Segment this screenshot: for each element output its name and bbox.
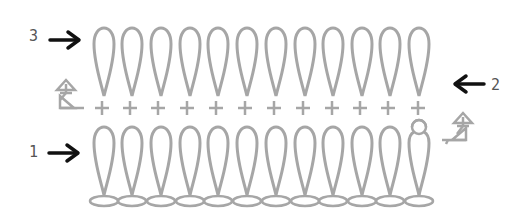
row-3-arrow-icon bbox=[50, 32, 79, 48]
row-1-stitches bbox=[94, 127, 400, 195]
row-1-first-stitch-with-chain bbox=[409, 120, 429, 195]
stitch-diagram bbox=[0, 0, 528, 222]
turning-chain-left-icon bbox=[57, 80, 84, 108]
row-2-arrow-icon bbox=[455, 76, 484, 92]
row-3-stitches bbox=[94, 28, 429, 96]
row-1-arrow-icon bbox=[49, 145, 78, 161]
turning-chain-right-icon bbox=[442, 113, 472, 144]
row-2-stitches bbox=[95, 101, 425, 115]
foundation-chain bbox=[90, 196, 433, 206]
